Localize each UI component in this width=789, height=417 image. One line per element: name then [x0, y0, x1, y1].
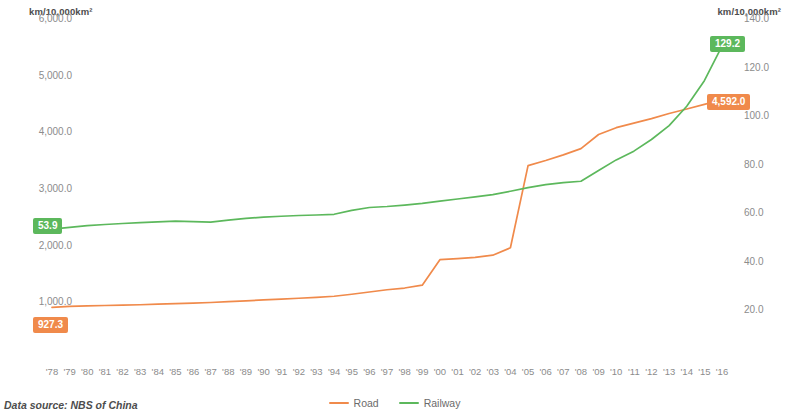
legend-swatch-icon	[399, 402, 419, 404]
legend-label: Railway	[424, 397, 461, 409]
x-axis-tick-label: '85	[169, 366, 181, 377]
x-axis-tick-label: '03	[487, 366, 499, 377]
x-axis-tick-label: '04	[504, 366, 516, 377]
x-axis-tick-label: '06	[539, 366, 551, 377]
x-axis-tick-label: '82	[116, 366, 128, 377]
x-axis-tick-label: '91	[275, 366, 287, 377]
right-axis-tick-label: 100.0	[744, 110, 769, 121]
x-axis-tick-label: '94	[328, 366, 340, 377]
x-axis-tick-label: '97	[381, 366, 393, 377]
plot-area	[36, 20, 736, 360]
plot-svg	[36, 20, 736, 360]
x-axis-tick-label: '87	[204, 366, 216, 377]
right-axis-tick-label: 60.0	[744, 207, 763, 218]
x-axis-tick-label: '98	[398, 366, 410, 377]
right-axis-tick-label: 120.0	[744, 62, 769, 73]
x-axis-tick-label: '05	[522, 366, 534, 377]
x-axis-tick-label: '99	[416, 366, 428, 377]
x-axis-tick-label: '79	[63, 366, 75, 377]
x-axis-tick-label: '10	[610, 366, 622, 377]
legend-label: Road	[354, 397, 379, 409]
x-axis-tick-label: '89	[240, 366, 252, 377]
x-axis-tick-label: '80	[81, 366, 93, 377]
x-axis-tick-label: '08	[575, 366, 587, 377]
x-axis-tick-label: '13	[663, 366, 675, 377]
chart-container: km/10,000km² km/10,000km² 1,000.02,000.0…	[0, 0, 789, 417]
x-axis-tick-label: '14	[681, 366, 693, 377]
x-axis-tick-label: '90	[257, 366, 269, 377]
x-axis-tick-label: '12	[645, 366, 657, 377]
x-axis-tick-label: '00	[434, 366, 446, 377]
right-axis-tick-label: 80.0	[744, 159, 763, 170]
x-axis-tick-labels: '78'79'80'81'82'83'84'85'86'87'88'89'90'…	[36, 366, 736, 386]
right-axis-tick-label: 40.0	[744, 256, 763, 267]
x-axis-tick-label: '86	[187, 366, 199, 377]
data-source-note: Data source: NBS of China	[4, 399, 138, 411]
x-axis-tick-label: '95	[346, 366, 358, 377]
right-axis-tick-label: 20.0	[744, 304, 763, 315]
right-axis-ticks: 20.040.060.080.0100.0120.0140.0	[738, 0, 789, 417]
right-axis-tick-label: 140.0	[744, 13, 769, 24]
legend-item[interactable]: Road	[329, 397, 379, 409]
x-axis-tick-label: '84	[152, 366, 164, 377]
x-axis-tick-label: '92	[293, 366, 305, 377]
x-axis-tick-label: '09	[592, 366, 604, 377]
road-end-value-badge: 4,592.0	[707, 94, 750, 110]
x-axis-tick-label: '07	[557, 366, 569, 377]
x-axis-tick-label: '81	[99, 366, 111, 377]
legend-item[interactable]: Railway	[399, 397, 461, 409]
railway-start-value-badge: 53.9	[33, 218, 62, 234]
x-axis-tick-label: '02	[469, 366, 481, 377]
x-axis-tick-label: '83	[134, 366, 146, 377]
x-axis-tick-label: '11	[628, 366, 640, 377]
x-axis-tick-label: '78	[46, 366, 58, 377]
railway-series-line	[52, 46, 722, 229]
x-axis-tick-label: '88	[222, 366, 234, 377]
x-axis-tick-label: '15	[698, 366, 710, 377]
road-start-value-badge: 927.3	[33, 317, 68, 333]
x-axis-tick-label: '93	[310, 366, 322, 377]
road-series-line	[52, 100, 722, 308]
legend-swatch-icon	[329, 402, 349, 404]
x-axis-tick-label: '01	[451, 366, 463, 377]
railway-end-value-badge: 129.2	[710, 36, 745, 52]
x-axis-tick-label: '16	[716, 366, 728, 377]
x-axis-tick-label: '96	[363, 366, 375, 377]
